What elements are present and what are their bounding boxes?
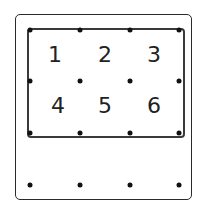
grid-dot (177, 131, 182, 136)
grid-dot (177, 28, 182, 33)
grid-dot (128, 183, 133, 188)
grid-dot (78, 28, 83, 33)
grid-dot (28, 28, 33, 33)
digit-label: 5 (98, 95, 112, 117)
grid-dot (78, 183, 83, 188)
digit-label: 4 (51, 95, 65, 117)
grid-dot (78, 79, 83, 84)
grid-dot (78, 131, 83, 136)
grid-dot (177, 183, 182, 188)
digit-label: 1 (48, 44, 62, 66)
grid-dot (28, 183, 33, 188)
grid-dot (177, 79, 182, 84)
grid-dot (128, 28, 133, 33)
grid-dot (128, 79, 133, 84)
digit-label: 2 (98, 44, 112, 66)
digit-label: 3 (147, 44, 161, 66)
grid-dot (28, 131, 33, 136)
grid-dot (128, 131, 133, 136)
grid-dot (28, 79, 33, 84)
digit-label: 6 (147, 95, 161, 117)
